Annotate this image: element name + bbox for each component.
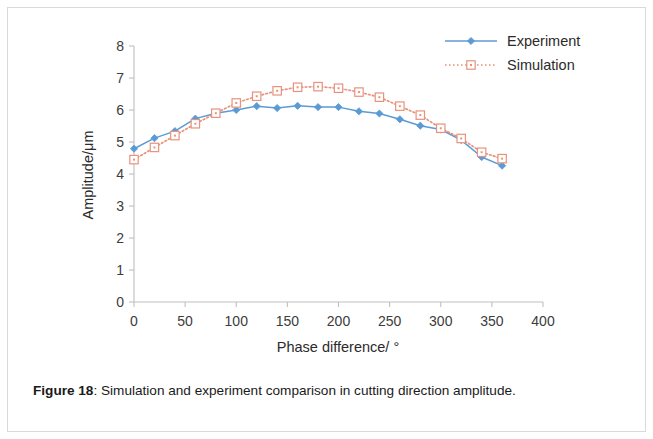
data-point-simulation-center <box>256 95 258 97</box>
data-point-simulation-center <box>153 146 155 148</box>
data-point-simulation-center <box>481 151 483 153</box>
figure-caption-text: Simulation and experiment comparison in … <box>101 383 516 398</box>
data-point-experiment <box>294 102 301 109</box>
y-axis-tick-label: 5 <box>116 134 124 150</box>
data-point-experiment <box>376 110 383 117</box>
x-axis-tick-label: 250 <box>378 313 402 329</box>
data-point-simulation-center <box>276 90 278 92</box>
figure-caption-label: Figure 18 <box>33 383 93 398</box>
data-point-simulation-center <box>235 102 237 104</box>
axis-tick-labels: 012345678050100150200250300350400 <box>116 38 555 329</box>
y-axis-tick-label: 8 <box>116 38 124 54</box>
y-axis-tick-label: 2 <box>116 230 124 246</box>
data-point-simulation-center <box>133 159 135 161</box>
y-axis-tick-label: 1 <box>116 262 124 278</box>
data-point-experiment <box>396 116 403 123</box>
x-axis-tick-label: 400 <box>531 313 555 329</box>
series-line-experiment <box>134 106 502 166</box>
data-point-simulation-center <box>460 137 462 139</box>
data-point-simulation-center <box>194 123 196 125</box>
legend-marker-simulation-center <box>470 64 472 66</box>
x-axis-tick-label: 350 <box>480 313 504 329</box>
data-point-experiment <box>151 135 158 142</box>
data-point-simulation-center <box>501 158 503 160</box>
x-axis-title: Phase difference/ ° <box>277 339 399 355</box>
x-axis-tick-label: 150 <box>276 313 300 329</box>
data-point-simulation-center <box>399 105 401 107</box>
legend-label-experiment[interactable]: Experiment <box>507 33 580 49</box>
y-axis-tick-label: 0 <box>116 294 124 310</box>
data-point-simulation-center <box>297 86 299 88</box>
y-axis-tick-label: 3 <box>116 198 124 214</box>
data-point-simulation-center <box>338 87 340 89</box>
y-axis-title: Amplitude/μm <box>80 131 96 220</box>
y-axis-tick-label: 6 <box>116 102 124 118</box>
data-point-experiment <box>130 145 137 152</box>
data-point-simulation-center <box>317 86 319 88</box>
data-point-simulation-center <box>174 135 176 137</box>
data-point-experiment <box>274 104 281 111</box>
data-point-simulation-center <box>378 96 380 98</box>
chart-series-group <box>130 82 507 169</box>
y-axis-tick-label: 4 <box>116 166 124 182</box>
data-point-experiment <box>417 122 424 129</box>
legend-marker-experiment <box>467 37 474 44</box>
figure-caption-separator: : <box>93 383 97 398</box>
data-point-experiment <box>314 104 321 111</box>
data-point-simulation-center <box>358 91 360 93</box>
figure-page: 012345678050100150200250300350400 Experi… <box>0 0 653 439</box>
x-axis-tick-label: 300 <box>429 313 453 329</box>
data-point-experiment <box>335 104 342 111</box>
chart-figure: 012345678050100150200250300350400 Experi… <box>0 0 653 372</box>
x-axis-tick-label: 100 <box>225 313 249 329</box>
data-point-simulation-center <box>215 112 217 114</box>
legend-label-simulation[interactable]: Simulation <box>507 57 575 73</box>
x-axis-tick-label: 0 <box>130 313 138 329</box>
x-axis-tick-label: 200 <box>327 313 351 329</box>
data-point-experiment <box>355 108 362 115</box>
data-point-experiment <box>253 103 260 110</box>
data-point-simulation-center <box>419 114 421 116</box>
data-point-simulation-center <box>440 127 442 129</box>
chart-svg: 012345678050100150200250300350400 Experi… <box>0 0 653 372</box>
figure-caption: Figure 18: Simulation and experiment com… <box>33 381 629 400</box>
chart-legend: ExperimentSimulation <box>445 33 580 73</box>
y-axis-tick-label: 7 <box>116 70 124 86</box>
x-axis-tick-label: 50 <box>177 313 193 329</box>
